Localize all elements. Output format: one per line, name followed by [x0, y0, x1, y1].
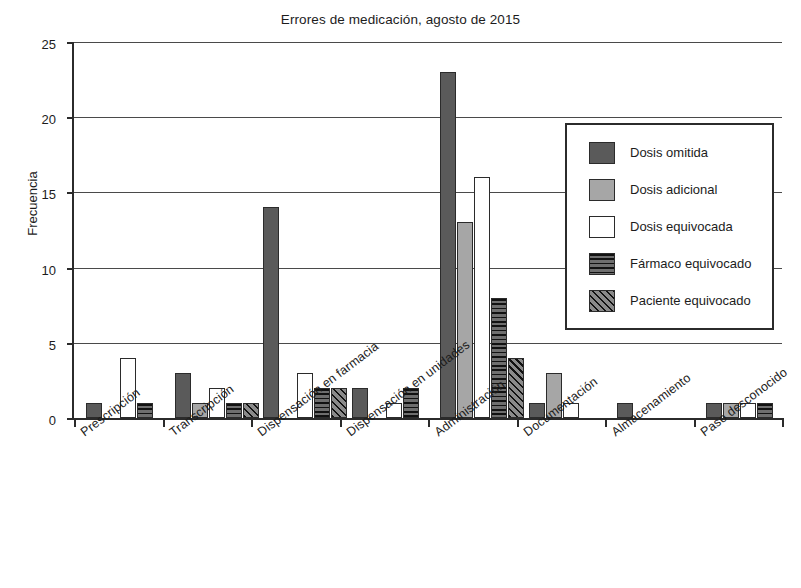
bar[interactable]: [331, 388, 347, 418]
bar[interactable]: [474, 177, 490, 418]
x-tick-mark: [517, 418, 519, 427]
x-tick-mark: [163, 418, 165, 427]
legend-item-dosis-omitida[interactable]: Dosis omitida: [567, 134, 772, 171]
legend-label: Dosis adicional: [630, 182, 717, 197]
bar[interactable]: [263, 207, 279, 418]
y-tick-label: 15: [42, 187, 56, 202]
x-tick-mark: [251, 418, 253, 427]
bar[interactable]: [137, 403, 153, 418]
chart-figure: Errores de medicación, agosto de 2015 Fr…: [0, 0, 801, 588]
legend-label: Dosis equivocada: [630, 219, 733, 234]
y-tick-label: 10: [42, 262, 56, 277]
gridline: [74, 343, 782, 344]
x-tick-mark: [428, 418, 430, 427]
legend-item-farmaco-equivocado[interactable]: Fármaco equivocado: [567, 245, 772, 282]
legend-label: Paciente equivocado: [630, 293, 751, 308]
y-tick-label: 25: [42, 37, 56, 52]
y-tick-mark: 25: [67, 42, 74, 44]
y-tick-label: 20: [42, 112, 56, 127]
legend-item-paciente-equivocado[interactable]: Paciente equivocado: [567, 282, 772, 319]
bar[interactable]: [226, 403, 242, 418]
x-tick-mark: [694, 418, 696, 427]
bar[interactable]: [243, 403, 259, 418]
legend-swatch-icon-paciente-equivocado: [589, 290, 615, 312]
x-tick-mark: [74, 418, 76, 427]
gridline: [74, 42, 782, 43]
y-axis-label: Frecuencia: [25, 144, 40, 264]
y-tick-label: 5: [49, 337, 56, 352]
y-tick-mark: 0: [67, 418, 74, 420]
legend-swatch-icon-farmaco-equivocado: [589, 253, 615, 275]
legend-swatch-icon-dosis-adicional: [589, 179, 615, 201]
chart-legend: Dosis omitida Dosis adicional Dosis equi…: [565, 123, 774, 330]
bar[interactable]: [491, 298, 507, 418]
y-tick-mark: 20: [67, 117, 74, 119]
legend-label: Fármaco equivocado: [630, 256, 751, 271]
legend-label: Dosis omitida: [630, 145, 708, 160]
chart-title: Errores de medicación, agosto de 2015: [0, 12, 801, 27]
y-tick-label: 0: [49, 413, 56, 428]
legend-swatch-icon-dosis-equivocada: [589, 216, 615, 238]
bar[interactable]: [508, 358, 524, 418]
y-tick-mark: 10: [67, 268, 74, 270]
legend-item-dosis-adicional[interactable]: Dosis adicional: [567, 171, 772, 208]
legend-swatch-icon-dosis-omitida: [589, 142, 615, 164]
bar[interactable]: [757, 403, 773, 418]
legend-item-dosis-equivocada[interactable]: Dosis equivocada: [567, 208, 772, 245]
y-tick-mark: 15: [67, 192, 74, 194]
x-tick-mark: [782, 418, 784, 427]
gridline: [74, 117, 782, 118]
bar[interactable]: [457, 222, 473, 418]
x-tick-mark: [605, 418, 607, 427]
y-tick-mark: 5: [67, 343, 74, 345]
x-tick-mark: [340, 418, 342, 427]
